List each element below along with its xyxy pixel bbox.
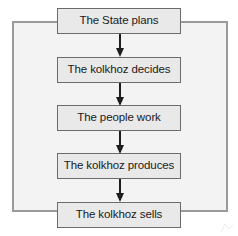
flowchart-figure: The State plans The kolkhoz decides The … [0, 0, 238, 236]
down-arrow-icon [116, 34, 124, 57]
flow-node-people-work: The people work [57, 105, 181, 131]
arrow-head [116, 193, 124, 202]
flow-node-label: The kolkhoz decides [68, 64, 171, 76]
flow-node-kolkhoz-sells: The kolkhoz sells [57, 202, 181, 228]
flow-node-label: The people work [77, 112, 161, 124]
arrow-head [116, 145, 124, 154]
down-arrow-icon [116, 179, 124, 202]
flow-node-kolkhoz-decides: The kolkhoz decides [57, 57, 181, 83]
flow-node-state-plans: The State plans [57, 8, 181, 34]
down-arrow-icon [116, 83, 124, 106]
flow-node-label: The State plans [79, 15, 158, 27]
arrow-head [116, 97, 124, 106]
flow-node-kolkhoz-produces: The kolkhoz produces [57, 153, 181, 179]
flow-node-label: The kolkhoz sells [76, 209, 163, 221]
arrow-head [116, 48, 124, 57]
scan-corner-artifact-icon [220, 223, 234, 234]
flow-node-label: The kolkhoz produces [64, 160, 175, 172]
down-arrow-icon [116, 131, 124, 154]
